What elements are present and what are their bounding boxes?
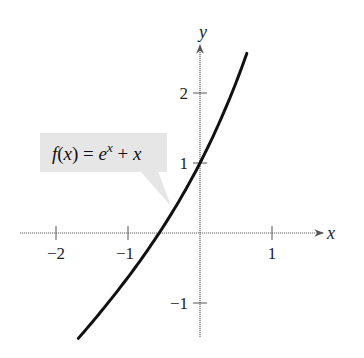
chart-figure: f(x) = ex + x −2 −1 1 2 1 −1 x y	[0, 0, 364, 358]
callout-label: f(x) = ex + x	[52, 140, 142, 165]
x-axis-label: x	[326, 223, 335, 243]
callout-pointer	[140, 171, 171, 206]
x-tick-label: −1	[116, 244, 134, 263]
function-callout: f(x) = ex + x	[40, 133, 171, 206]
x-tick-label: −2	[47, 244, 65, 263]
y-tick-label: 2	[180, 84, 189, 103]
y-axis-label: y	[197, 22, 207, 42]
y-tick-label: −1	[170, 294, 188, 313]
x-tick-label: 1	[268, 244, 277, 263]
y-tick-label: 1	[180, 154, 189, 173]
chart-svg: f(x) = ex + x −2 −1 1 2 1 −1 x y	[0, 0, 364, 358]
